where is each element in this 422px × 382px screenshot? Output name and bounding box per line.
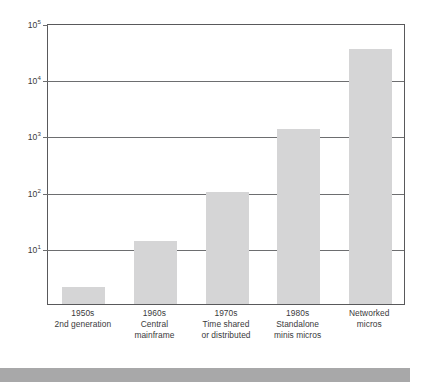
y-tick-mark-1e2 [43, 194, 48, 195]
y-axis-label-1e2: 102 [28, 189, 41, 199]
y-tick-mark-1e3 [43, 137, 48, 138]
y-axis-label-1e4: 104 [28, 76, 41, 86]
plot-area: 101102103104105 [47, 24, 405, 305]
x-axis-category-labels: 1950s2nd generation1960sCentralmainframe… [47, 308, 405, 360]
y-tick-mark-1e4 [43, 81, 48, 82]
bar-3 [277, 129, 320, 304]
bar-0 [62, 287, 105, 304]
x-axis-label-3-line-2: minis micros [250, 330, 346, 341]
bottom-decorative-strip [0, 368, 410, 382]
x-axis-label-4: Networkedmicros [321, 308, 417, 330]
y-tick-mark-1e1 [43, 250, 48, 251]
x-axis-label-4-line-0: Networked [321, 308, 417, 319]
y-axis-label-1e5: 105 [28, 20, 41, 30]
y-axis-label-1e1: 101 [28, 245, 41, 255]
bar-4 [349, 49, 392, 304]
y-axis-label-1e3: 103 [28, 132, 41, 142]
bar-1 [134, 241, 177, 304]
x-axis-label-4-line-1: micros [321, 319, 417, 330]
y-tick-mark-1e5 [43, 25, 48, 26]
chart-figure: 101102103104105 1950s2nd generation1960s… [0, 0, 422, 382]
bar-2 [206, 192, 249, 304]
